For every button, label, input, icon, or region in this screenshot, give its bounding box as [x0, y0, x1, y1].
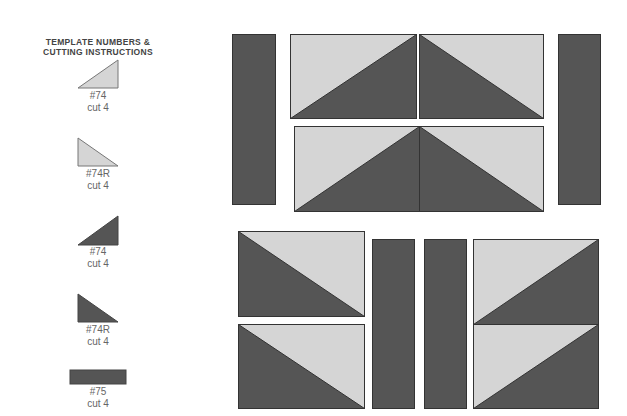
quilt-block-diagram	[0, 0, 627, 416]
strip-75	[559, 35, 601, 205]
hst-unit	[420, 127, 544, 212]
hst-unit	[239, 232, 365, 317]
hst-unit	[291, 35, 417, 119]
strip-75	[233, 35, 276, 205]
hst-unit	[474, 240, 599, 325]
hst-unit	[239, 325, 365, 409]
hst-unit	[474, 325, 599, 409]
hst-unit	[295, 127, 420, 212]
strip-75	[425, 240, 467, 409]
strip-75	[373, 240, 415, 409]
hst-unit	[420, 35, 544, 119]
